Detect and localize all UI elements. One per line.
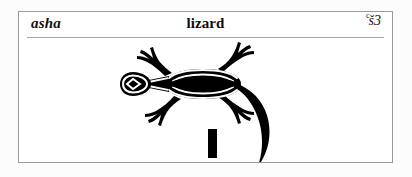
transliteration-base: š3 bbox=[369, 13, 381, 28]
lizard-front-left-leg bbox=[137, 47, 172, 76]
lizard-tail bbox=[227, 82, 270, 162]
scale-bar bbox=[208, 129, 217, 158]
transliteration-ayin-superscript: c bbox=[366, 11, 370, 20]
gloss-text: lizard bbox=[19, 15, 392, 32]
entry-header: asha lizard cš3 bbox=[19, 12, 392, 38]
lizard-hind-left-leg bbox=[145, 96, 181, 126]
lizard-spine-band bbox=[169, 78, 237, 90]
illustration-area bbox=[19, 38, 392, 162]
transliteration-text: cš3 bbox=[365, 13, 381, 28]
page-canvas: asha lizard cš3 bbox=[0, 0, 412, 177]
dictionary-entry-card: asha lizard cš3 bbox=[18, 11, 393, 163]
lizard-front-right-leg bbox=[218, 42, 254, 72]
